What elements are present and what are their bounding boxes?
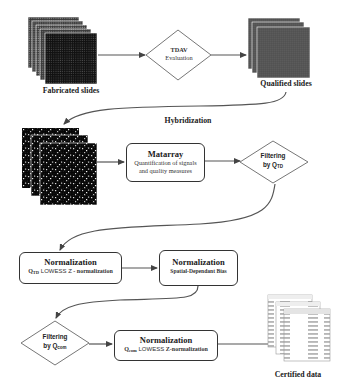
norm-qcom-subtitle: Qcom LOWESS Z-normalization: [115, 345, 217, 355]
fabricated-slides-image: [28, 17, 97, 84]
matarray-line2: and quality measures: [127, 167, 204, 175]
norm-spatial-title: Normalization: [160, 257, 237, 267]
edge-spatial-to-filter-qcom: [56, 286, 198, 318]
norm-lowess-subtitle: QTD LOWESS Z - normalization: [20, 267, 121, 277]
lowess-text: LOWESS Z: [39, 268, 72, 274]
matarray-title: Matarray: [127, 149, 204, 159]
filter-qtd-text: Filtering by QTD: [246, 152, 300, 171]
filter-qtd-line2: by QTD: [246, 161, 300, 172]
qualified-slides-image: [248, 18, 310, 78]
normalization-text: Z-normalization: [166, 346, 208, 352]
norm-qcom-title: Normalization: [115, 335, 217, 345]
normalization-text: - normalization: [72, 268, 113, 274]
q-subscript: com: [129, 348, 137, 353]
matarray-line1: Quantification of signals: [127, 159, 204, 167]
tdav-node: TDAV Evaluation: [150, 46, 208, 62]
certified-data-image: [268, 295, 330, 361]
norm-spatial-subtitle: Spatial-Dependant Bias: [160, 267, 237, 275]
hybridization-label: Hybridization: [150, 116, 226, 125]
filter-qcom-text: Filtering by Qcom: [28, 333, 82, 352]
filter-qtd-prefix: by Q: [263, 161, 277, 168]
hybridized-slides-image: [22, 128, 97, 205]
filter-qcom-prefix: by Q: [43, 342, 57, 349]
matarray-box: Matarray Quantification of signals and q…: [126, 143, 205, 182]
norm-lowess-box: Normalization QTD LOWESS Z - normalizati…: [19, 252, 122, 284]
lowess-text: LOWESS: [137, 346, 166, 352]
norm-lowess-title: Normalization: [20, 257, 121, 267]
norm-qcom-box: Normalization Qcom LOWESS Z-normalizatio…: [114, 330, 218, 361]
tdav-title: TDAV: [150, 46, 208, 54]
filter-qcom-subscript: com: [57, 345, 66, 350]
fabricated-slides-label: Fabricated slides: [36, 86, 106, 95]
filter-qtd-subscript: TD: [277, 164, 283, 169]
filter-qcom-line2: by Qcom: [28, 342, 82, 353]
tdav-subtitle: Evaluation: [150, 54, 208, 62]
filter-qcom-line1: Filtering: [28, 333, 82, 342]
qualified-slides-label: Qualified slides: [252, 79, 320, 88]
filter-qtd-line1: Filtering: [246, 152, 300, 161]
certified-data-label: Certified data: [263, 370, 333, 379]
norm-spatial-box: Normalization Spatial-Dependant Bias: [159, 250, 238, 286]
